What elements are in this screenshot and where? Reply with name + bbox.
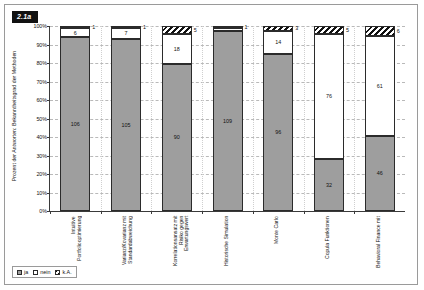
y-tick-mark — [47, 100, 50, 101]
x-tick-mark — [101, 211, 102, 214]
bar-segment-nein[interactable]: 6 — [60, 28, 90, 38]
x-axis-category-label: Korrelationsansatz mit Risiko gegen Erwa… — [173, 216, 197, 272]
bar-group[interactable]: 9018 — [162, 26, 192, 211]
x-axis-category-label: Intuitive Portfoliooptimierung — [71, 216, 95, 272]
y-tick-mark — [47, 156, 50, 157]
bar-value-label-outside: 1 — [143, 24, 146, 30]
y-tick-mark — [47, 82, 50, 83]
bar-segment-ka[interactable] — [162, 26, 192, 34]
legend-item-nein[interactable]: nein — [33, 269, 50, 275]
bar-value-label: 105 — [122, 122, 131, 128]
bar-value-label-outside: 5 — [194, 27, 197, 33]
bar-segment-ja[interactable]: 90 — [162, 64, 192, 211]
y-tick-label: 80% — [36, 60, 47, 66]
bar-value-label: 7 — [125, 30, 128, 36]
bar-group[interactable]: 1057 — [111, 26, 141, 211]
y-tick-label: 30% — [36, 153, 47, 159]
x-axis-category-label: Behavioral Finance mit — [376, 216, 400, 272]
y-tick-label: 60% — [36, 97, 47, 103]
x-tick-mark — [202, 211, 203, 214]
bar-segment-nein[interactable]: 76 — [314, 34, 344, 158]
bar-value-label: 106 — [71, 121, 80, 127]
category-separator — [304, 26, 305, 211]
y-tick-label: 50% — [36, 116, 47, 122]
x-axis-category-label: Monte Carlo — [274, 216, 298, 272]
bar-value-label: 46 — [377, 170, 383, 176]
bar-group[interactable]: 109 — [213, 26, 243, 211]
bar-segment-ka[interactable] — [365, 26, 395, 36]
y-tick-label: 20% — [36, 171, 47, 177]
bar-segment-ka[interactable] — [314, 26, 344, 34]
bar-group[interactable]: 3276 — [314, 26, 344, 211]
chart-legend: ja nein k.A. — [12, 266, 77, 278]
x-tick-mark — [50, 211, 51, 214]
legend-item-ja[interactable]: ja — [17, 269, 28, 275]
bar-value-label-outside: 6 — [397, 28, 400, 34]
x-axis-category-label: Varianz/Kovarianz mit Standardabweichung — [122, 216, 146, 272]
y-tick-label: 90% — [36, 42, 47, 48]
y-tick-mark — [47, 174, 50, 175]
plot-area: 0%10%20%30%40%50%60%70%80%90%100%1106611… — [49, 26, 405, 212]
y-tick-mark — [47, 45, 50, 46]
y-tick-label: 10% — [36, 190, 47, 196]
category-separator — [354, 26, 355, 211]
hatched-swatch-icon — [55, 270, 60, 275]
bar-value-label: 90 — [174, 134, 180, 140]
y-tick-label: 100% — [33, 23, 47, 29]
legend-label-ja: ja — [24, 269, 28, 275]
figure-frame: 2.1a Prozent der Antworten: Bekanntheits… — [4, 4, 418, 285]
bar-segment-ka[interactable] — [263, 26, 293, 31]
solid-gray-swatch-icon — [17, 270, 22, 275]
bar-segment-ja[interactable]: 96 — [263, 54, 293, 211]
x-tick-mark — [354, 211, 355, 214]
y-tick-label: 70% — [36, 79, 47, 85]
y-axis-title: Prozent der Antworten: Bekanntheitsgrad … — [11, 16, 17, 216]
bar-segment-ka[interactable] — [111, 26, 141, 28]
bar-value-label: 76 — [326, 93, 332, 99]
bar-value-label-outside: 5 — [346, 27, 349, 33]
bar-segment-nein[interactable]: 61 — [365, 36, 395, 136]
bar-segment-nein[interactable]: 14 — [263, 31, 293, 54]
y-tick-mark — [47, 119, 50, 120]
category-separator — [253, 26, 254, 211]
category-separator — [202, 26, 203, 211]
bar-segment-ja[interactable]: 46 — [365, 136, 395, 211]
bar-segment-ka[interactable] — [60, 26, 90, 28]
bar-value-label: 109 — [223, 118, 232, 124]
y-tick-mark — [47, 63, 50, 64]
x-tick-mark — [151, 211, 152, 214]
category-separator — [151, 26, 152, 211]
bar-value-label-outside: 1 — [92, 24, 95, 30]
bar-segment-nein[interactable]: 7 — [111, 28, 141, 39]
bar-segment-ja[interactable]: 109 — [213, 31, 243, 211]
y-tick-label: 40% — [36, 134, 47, 140]
bar-segment-ja[interactable]: 106 — [60, 37, 90, 211]
bar-value-label: 61 — [377, 83, 383, 89]
legend-item-ka[interactable]: k.A. — [55, 269, 71, 275]
bar-segment-nein[interactable]: 18 — [162, 34, 192, 63]
bar-value-label: 96 — [275, 129, 281, 135]
y-tick-label: 0% — [39, 208, 47, 214]
bar-segment-ka[interactable] — [213, 26, 243, 28]
bar-segment-nein[interactable] — [213, 28, 243, 31]
bar-value-label: 14 — [275, 39, 281, 45]
y-tick-mark — [47, 137, 50, 138]
category-separator — [101, 26, 102, 211]
x-tick-mark — [304, 211, 305, 214]
x-axis-category-label: Copula Funktionen — [325, 216, 349, 272]
bar-value-label: 18 — [174, 46, 180, 52]
y-tick-mark — [47, 26, 50, 27]
bar-value-label: 6 — [74, 30, 77, 36]
white-swatch-icon — [33, 270, 38, 275]
bar-segment-ja[interactable]: 105 — [111, 39, 141, 211]
bar-value-label-outside: 3 — [295, 25, 298, 31]
bar-segment-ja[interactable]: 32 — [314, 159, 344, 211]
bar-group[interactable]: 4661 — [365, 26, 395, 211]
y-tick-mark — [47, 193, 50, 194]
bar-value-label: 32 — [326, 182, 332, 188]
x-tick-mark — [253, 211, 254, 214]
legend-label-nein: nein — [40, 269, 50, 275]
bar-group[interactable]: 9614 — [263, 26, 293, 211]
x-axis-category-label: Historische Simulation — [224, 216, 248, 272]
bar-group[interactable]: 1066 — [60, 26, 90, 211]
